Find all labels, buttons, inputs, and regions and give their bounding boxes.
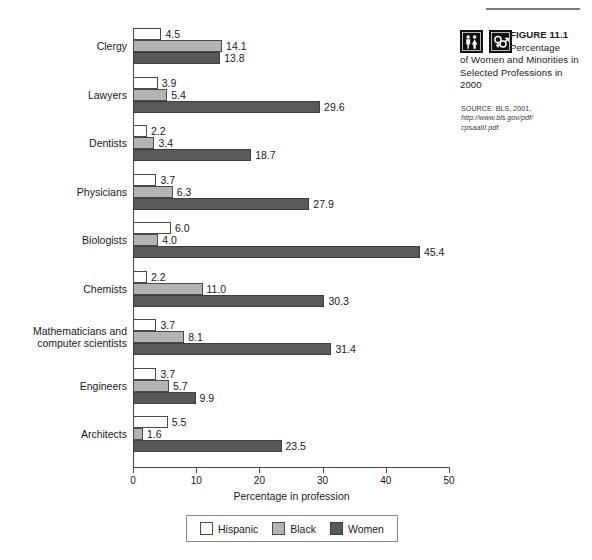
bar-black [133, 283, 203, 295]
bar-group: Architects5.51.623.5 [133, 416, 592, 452]
bar-value-label: 5.4 [171, 89, 186, 101]
bar-value-label: 6.3 [177, 186, 192, 198]
bar-women [133, 392, 196, 404]
bar-group: Physicians3.76.327.9 [133, 174, 592, 210]
legend-item-black: Black [272, 522, 316, 535]
bar-value-label: 6.0 [175, 222, 190, 234]
bar-black [133, 137, 154, 149]
bar-value-label: 18.7 [255, 149, 275, 161]
bar-women [133, 246, 420, 258]
bar-hispanic [133, 368, 156, 380]
x-tick-label-50: 50 [443, 475, 454, 486]
bar-group: Biologists6.04.045.4 [133, 222, 592, 258]
legend-item-hispanic: Hispanic [200, 522, 258, 535]
bar-women [133, 149, 251, 161]
category-label: Clergy [0, 40, 127, 52]
bar-hispanic [133, 125, 147, 137]
x-tick-50 [449, 468, 450, 473]
legend-swatch-women [330, 522, 343, 535]
bar-value-label: 5.7 [173, 380, 188, 392]
bar-value-label: 8.1 [188, 331, 203, 343]
bar-value-label: 31.4 [335, 343, 355, 355]
legend-item-women: Women [330, 522, 384, 535]
category-label: Physicians [0, 186, 127, 198]
x-tick-30 [323, 468, 324, 473]
bar-value-label: 3.4 [158, 137, 173, 149]
bar-group: Engineers3.75.79.9 [133, 368, 592, 404]
figure-source: SOURCE: BLS, 2001, http://www.bls.gov/pd… [461, 104, 587, 132]
legend-swatch-hispanic [200, 522, 213, 535]
figure-number-heading: FIGURE 11.1 Percentage [510, 29, 586, 54]
figure-number: FIGURE 11.1 [510, 29, 568, 40]
x-axis-line [133, 467, 450, 468]
gender-symbols-icon [489, 30, 512, 53]
bar-value-label: 4.0 [162, 234, 177, 246]
source-url-line-1: http://www.bls.gov/pdf/ [461, 113, 587, 122]
x-axis-title: Percentage in profession [133, 490, 450, 502]
legend-label-black: Black [290, 523, 316, 535]
bar-value-label: 3.7 [160, 368, 175, 380]
bar-value-label: 27.9 [313, 198, 333, 210]
bar-black [133, 89, 167, 101]
bar-value-label: 5.5 [172, 416, 187, 428]
male-female-figures-icon [460, 30, 483, 53]
bar-value-label: 3.7 [160, 174, 175, 186]
x-tick-0 [133, 468, 134, 473]
bar-value-label: 11.0 [207, 283, 227, 295]
source-line: SOURCE: BLS, 2001, [461, 104, 587, 113]
bar-value-label: 45.4 [424, 246, 444, 258]
bar-value-label: 14.1 [226, 40, 246, 52]
bar-value-label: 1.6 [147, 428, 162, 440]
bar-value-label: 2.2 [151, 125, 166, 137]
source-url-line-2: cpsaatII.pdf. [461, 123, 587, 132]
bar-hispanic [133, 416, 168, 428]
bar-value-label: 23.5 [286, 440, 306, 452]
bar-hispanic [133, 319, 156, 331]
category-label: Architects [0, 428, 127, 440]
category-label: Engineers [0, 380, 127, 392]
bar-hispanic [133, 174, 156, 186]
bar-hispanic [133, 28, 161, 40]
bar-black [133, 40, 222, 52]
category-label: Dentists [0, 137, 127, 149]
x-tick-label-20: 20 [254, 475, 265, 486]
bar-hispanic [133, 271, 147, 283]
bar-value-label: 3.9 [162, 77, 177, 89]
bar-chart: 01020304050 Clergy4.514.113.8Lawyers3.95… [0, 0, 460, 560]
bar-hispanic [133, 222, 171, 234]
bar-women [133, 343, 331, 355]
category-label: Mathematicians and computer scientists [0, 325, 127, 349]
bar-value-label: 30.3 [328, 295, 348, 307]
x-tick-label-40: 40 [380, 475, 391, 486]
x-tick-label-10: 10 [191, 475, 202, 486]
figure-title-rest: of Women and Minorities in Selected Prof… [460, 54, 586, 92]
figure-icon-row [460, 30, 512, 53]
category-label: Chemists [0, 283, 127, 295]
x-tick-10 [196, 468, 197, 473]
chart-legend: Hispanic Black Women [186, 515, 398, 542]
figure-page: 01020304050 Clergy4.514.113.8Lawyers3.95… [0, 0, 592, 560]
bar-black [133, 186, 173, 198]
bar-women [133, 52, 220, 64]
category-label: Biologists [0, 234, 127, 246]
category-label: Lawyers [0, 89, 127, 101]
bar-group: Chemists2.211.030.3 [133, 271, 592, 307]
bar-value-label: 3.7 [160, 319, 175, 331]
bar-women [133, 440, 282, 452]
bar-value-label: 13.8 [224, 52, 244, 64]
legend-label-women: Women [348, 523, 384, 535]
bar-value-label: 29.6 [324, 101, 344, 113]
x-tick-20 [259, 468, 260, 473]
legend-label-hispanic: Hispanic [218, 523, 258, 535]
bar-value-label: 4.5 [165, 28, 180, 40]
bar-value-label: 9.9 [200, 392, 215, 404]
x-tick-label-30: 30 [317, 475, 328, 486]
legend-swatch-black [272, 522, 285, 535]
bar-hispanic [133, 77, 158, 89]
bar-women [133, 295, 324, 307]
bar-black [133, 234, 158, 246]
bar-group: Mathematicians and computer scientists3.… [133, 319, 592, 355]
x-tick-label-0: 0 [130, 475, 136, 486]
bar-black [133, 428, 143, 440]
bar-women [133, 101, 320, 113]
